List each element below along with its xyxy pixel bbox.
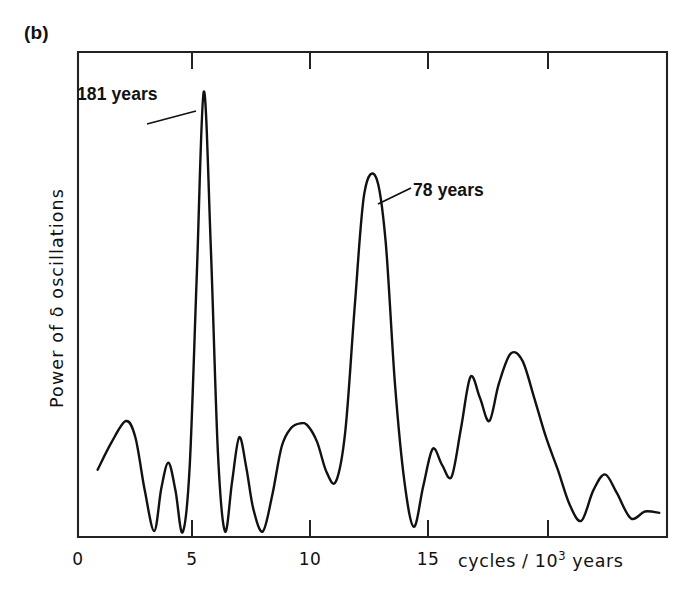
x-tick-label-5: 5 xyxy=(186,549,197,569)
x-tick-label-10: 10 xyxy=(299,549,322,569)
x-axis-title-unit: years xyxy=(566,551,623,571)
leader-line-78 xyxy=(378,188,411,204)
x-tick-label-0: 0 xyxy=(72,549,83,569)
x-axis-title: cycles / 103 years xyxy=(458,551,624,571)
x-axis-ticks-top xyxy=(192,52,548,69)
annotation-label-78-years: 78 years xyxy=(413,180,484,201)
figure-panel-b: (b) 181 years 78 years 0 5 10 xyxy=(0,0,697,610)
x-axis-ticks-bottom xyxy=(192,520,548,537)
y-axis-title: Power of δ oscillations xyxy=(47,148,67,448)
annotation-label-181-years: 181 years xyxy=(77,84,158,105)
annotation-leader-lines xyxy=(147,111,411,204)
x-axis-title-main: cycles / 10 xyxy=(458,551,558,571)
leader-line-181 xyxy=(147,111,196,124)
x-tick-label-15: 15 xyxy=(417,549,440,569)
spectrum-curve xyxy=(98,91,660,532)
x-axis-title-exponent: 3 xyxy=(558,549,566,563)
